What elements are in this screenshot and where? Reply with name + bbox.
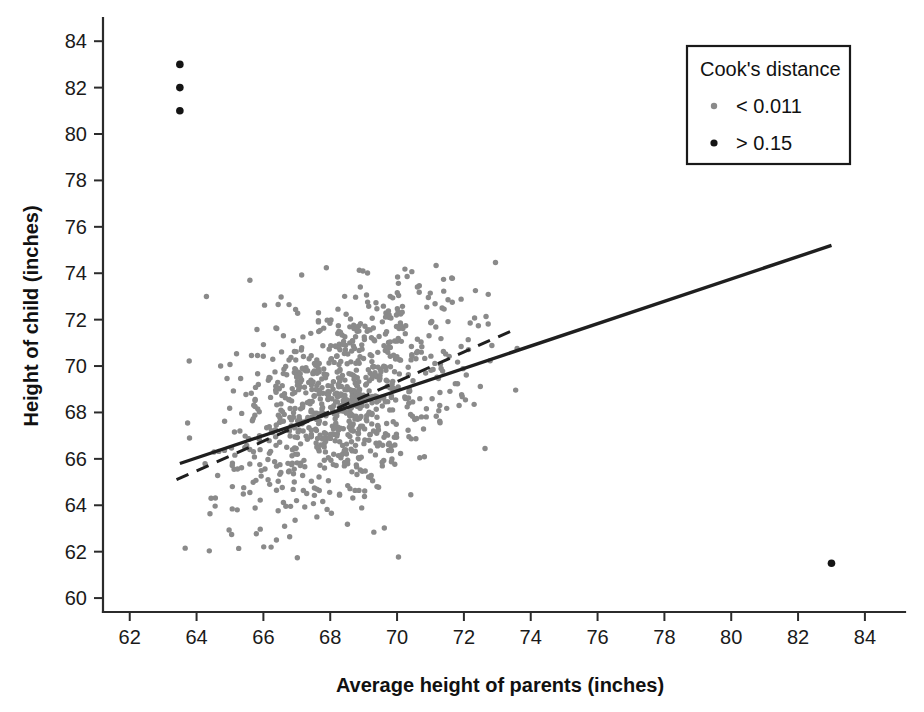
scatter-point: [371, 325, 376, 330]
scatter-point: [376, 485, 381, 490]
scatter-point: [447, 389, 452, 394]
scatter-point: [262, 466, 267, 471]
scatter-point: [287, 406, 292, 411]
scatter-point: [459, 392, 464, 397]
scatter-point: [298, 441, 303, 446]
scatter-point: [349, 348, 354, 353]
y-tick-label: 64: [65, 494, 87, 516]
x-tick-label: 84: [854, 626, 876, 648]
scatter-point: [312, 485, 317, 490]
scatter-point: [332, 438, 337, 443]
outlier-point: [828, 559, 836, 567]
scatter-point: [295, 555, 300, 560]
scatter-point: [314, 370, 319, 375]
scatter-point: [396, 554, 401, 559]
scatter-point: [250, 418, 255, 423]
scatter-point: [384, 329, 389, 334]
scatter-point: [349, 439, 354, 444]
scatter-point: [414, 416, 419, 421]
scatter-point: [292, 479, 297, 484]
scatter-point: [232, 429, 237, 434]
scatter-point: [389, 459, 394, 464]
y-tick-label: 74: [65, 262, 87, 284]
scatter-point: [392, 442, 397, 447]
scatter-point: [230, 463, 235, 468]
scatter-point: [207, 548, 212, 553]
scatter-point: [253, 385, 258, 390]
scatter-point: [239, 465, 244, 470]
legend-marker-low-influence: [711, 103, 717, 109]
scatter-point: [370, 478, 375, 483]
scatter-point: [319, 385, 324, 390]
scatter-point: [286, 397, 291, 402]
scatter-point: [253, 478, 258, 483]
y-tick-label: 78: [65, 169, 87, 191]
scatter-point: [382, 525, 387, 530]
scatter-point: [374, 306, 379, 311]
scatter-point: [292, 434, 297, 439]
scatter-point: [358, 284, 363, 289]
scatter-point: [262, 302, 267, 307]
scatter-point: [348, 359, 353, 364]
scatter-point: [277, 462, 282, 467]
scatter-point: [438, 366, 443, 371]
scatter-point: [388, 339, 393, 344]
scatter-point: [350, 428, 355, 433]
scatter-point: [320, 499, 325, 504]
scatter-point: [353, 413, 358, 418]
y-tick-label: 62: [65, 541, 87, 563]
scatter-point: [243, 392, 248, 397]
scatter-point: [287, 433, 292, 438]
scatter-point: [406, 401, 411, 406]
outlier-point: [176, 107, 184, 115]
scatter-point: [300, 473, 305, 478]
scatter-point: [227, 362, 232, 367]
scatter-point: [464, 372, 469, 377]
scatter-point: [394, 431, 399, 436]
scatter-point: [364, 403, 369, 408]
scatter-point: [274, 488, 279, 493]
scatter-point: [359, 342, 364, 347]
scatter-point: [406, 365, 411, 370]
scatter-point: [408, 492, 413, 497]
scatter-point: [282, 524, 287, 529]
scatter-point: [312, 493, 317, 498]
outlier-point: [176, 61, 184, 69]
scatter-point: [345, 522, 350, 527]
scatter-point: [362, 494, 367, 499]
plot-canvas: 60626466687072747678808284 6264666870727…: [0, 0, 924, 712]
scatter-point: [279, 349, 284, 354]
scatter-point: [434, 414, 439, 419]
y-tick-label: 80: [65, 123, 87, 145]
scatter-point: [380, 319, 385, 324]
scatter-point: [374, 415, 379, 420]
scatter-point: [316, 366, 321, 371]
scatter-point: [261, 544, 266, 549]
scatter-point: [293, 349, 298, 354]
scatter-point: [366, 438, 371, 443]
legend: Cook's distance < 0.011 > 0.15: [687, 46, 850, 164]
scatter-point: [321, 325, 326, 330]
x-tick-label: 62: [119, 626, 141, 648]
y-axis-title: Height of child (inches): [20, 205, 42, 426]
scatter-point: [396, 293, 401, 298]
scatter-point: [408, 357, 413, 362]
scatter-point: [251, 402, 256, 407]
scatter-point: [409, 269, 414, 274]
scatter-point: [357, 456, 362, 461]
scatter-point: [370, 316, 375, 321]
scatter-point: [432, 361, 437, 366]
scatter-point: [417, 455, 422, 460]
scatter-point: [473, 288, 478, 293]
scatter-point: [318, 442, 323, 447]
scatter-point: [456, 403, 461, 408]
scatter-point: [288, 355, 293, 360]
scatter-point: [291, 338, 296, 343]
scatter-point: [352, 488, 357, 493]
scatter-point: [371, 529, 376, 534]
scatter-point: [283, 504, 288, 509]
x-tick-label: 66: [252, 626, 274, 648]
scatter-point: [280, 485, 285, 490]
scatter-point: [485, 321, 490, 326]
scatter-point: [284, 445, 289, 450]
